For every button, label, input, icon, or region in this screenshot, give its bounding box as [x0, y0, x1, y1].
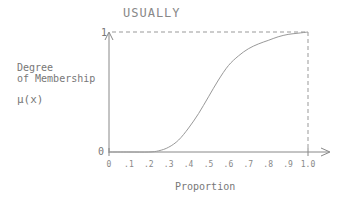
membership-curve: [109, 32, 308, 152]
plot-area: [0, 0, 350, 205]
